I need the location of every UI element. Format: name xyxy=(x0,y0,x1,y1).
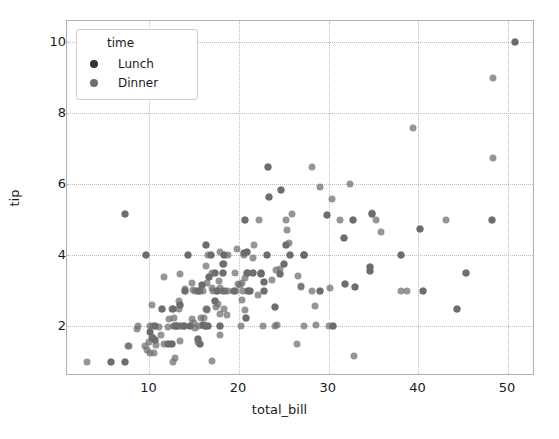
data-point xyxy=(326,323,333,330)
data-point xyxy=(242,314,249,321)
data-point xyxy=(288,211,295,218)
data-point xyxy=(280,261,287,268)
data-point xyxy=(293,341,300,348)
y-axis-label: tip xyxy=(7,190,22,207)
data-point xyxy=(283,227,290,234)
data-point xyxy=(337,216,344,223)
data-point xyxy=(240,287,247,294)
gridline-vertical xyxy=(508,21,509,374)
legend: time LunchDinner xyxy=(76,29,198,100)
x-tick-label: 20 xyxy=(230,380,247,395)
data-point xyxy=(256,216,263,223)
data-point xyxy=(225,287,232,294)
data-point xyxy=(224,312,231,319)
data-point xyxy=(454,305,461,312)
data-point xyxy=(309,287,316,294)
data-point xyxy=(282,242,289,249)
data-point xyxy=(177,338,184,345)
data-point xyxy=(300,323,307,330)
legend-item-dinner[interactable]: Dinner xyxy=(85,73,189,92)
data-point xyxy=(238,296,245,303)
data-point xyxy=(219,270,226,277)
gridline-vertical xyxy=(239,21,240,374)
data-point xyxy=(133,326,140,333)
data-point xyxy=(367,263,374,270)
data-point xyxy=(317,184,324,191)
data-point xyxy=(263,252,270,259)
data-point xyxy=(238,322,245,329)
gridline-vertical xyxy=(418,21,419,374)
data-point xyxy=(378,228,385,235)
data-point xyxy=(257,270,264,277)
data-point xyxy=(316,287,323,294)
data-point xyxy=(165,316,172,323)
x-tick-label: 10 xyxy=(140,380,157,395)
data-point xyxy=(202,262,209,269)
x-tick-label: 30 xyxy=(320,380,337,395)
data-point xyxy=(200,314,207,321)
data-point xyxy=(488,216,495,223)
legend-item-lunch[interactable]: Lunch xyxy=(85,54,189,73)
data-point xyxy=(160,273,167,280)
data-point xyxy=(203,241,210,248)
data-point xyxy=(197,341,204,348)
data-point xyxy=(188,316,195,323)
data-point xyxy=(160,341,167,348)
data-point xyxy=(351,352,358,359)
data-point xyxy=(278,186,285,193)
data-point xyxy=(349,216,356,223)
data-point xyxy=(205,252,212,259)
data-point xyxy=(216,332,223,339)
y-tick-label: 6 xyxy=(58,176,66,191)
data-point xyxy=(147,323,154,330)
data-point xyxy=(272,323,279,330)
data-point xyxy=(295,273,302,280)
data-point xyxy=(309,163,316,170)
data-point xyxy=(398,252,405,259)
data-point xyxy=(182,287,189,294)
data-point xyxy=(202,305,209,312)
data-point xyxy=(185,252,192,259)
data-point xyxy=(372,216,379,223)
data-point xyxy=(342,281,349,288)
data-point xyxy=(169,358,176,365)
data-point xyxy=(260,323,267,330)
data-point xyxy=(324,211,331,218)
data-point xyxy=(189,279,196,286)
data-point xyxy=(217,323,224,330)
data-point xyxy=(271,303,278,310)
data-point xyxy=(287,252,294,259)
data-point xyxy=(242,307,249,314)
data-point xyxy=(153,342,160,349)
data-point xyxy=(147,349,154,356)
y-tick-label: 4 xyxy=(58,247,66,262)
data-point xyxy=(404,287,411,294)
data-point xyxy=(443,216,450,223)
data-point xyxy=(463,270,470,277)
data-point xyxy=(329,195,336,202)
data-point xyxy=(157,331,164,338)
data-point xyxy=(250,255,257,262)
data-point xyxy=(204,279,211,286)
x-tick-label: 50 xyxy=(499,380,516,395)
y-tick-label: 8 xyxy=(58,105,66,120)
data-point xyxy=(240,252,247,259)
data-point xyxy=(142,252,149,259)
data-point xyxy=(231,269,238,276)
data-point xyxy=(158,305,165,312)
data-point xyxy=(196,287,203,294)
data-point xyxy=(220,260,227,267)
data-point xyxy=(212,270,219,277)
data-point xyxy=(341,234,348,241)
legend-title: time xyxy=(107,36,189,50)
data-point xyxy=(213,287,220,294)
data-point xyxy=(489,155,496,162)
data-point xyxy=(251,241,258,248)
data-point xyxy=(175,305,182,312)
data-point xyxy=(126,343,133,350)
data-point xyxy=(269,276,276,283)
data-point xyxy=(121,358,128,365)
data-point xyxy=(224,252,231,259)
data-point xyxy=(255,292,262,299)
data-point xyxy=(149,302,156,309)
